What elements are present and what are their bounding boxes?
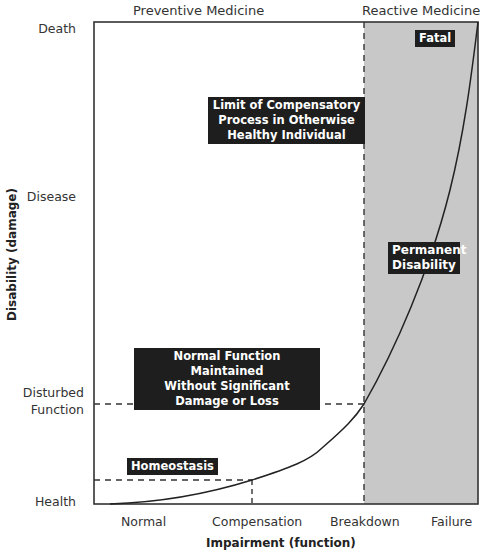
limit-compensatory-label: Limit of Compensatory Process in Otherwi… xyxy=(208,97,365,144)
y-tick-death: Death xyxy=(20,21,76,36)
x-tick-failure: Failure xyxy=(431,514,472,529)
normal-line2: Without Significant xyxy=(138,379,316,394)
permanent-disability-label: Permanent Disability xyxy=(388,242,460,274)
x-tick-breakdown: Breakdown xyxy=(330,514,400,529)
reactive-medicine-label: Reactive Medicine xyxy=(362,3,480,18)
diagram-canvas xyxy=(0,0,490,556)
x-axis-title: Impairment (function) xyxy=(206,536,356,550)
y-tick-disturbed-line2: Function xyxy=(20,401,84,418)
fatal-label: Fatal xyxy=(415,30,455,47)
normal-line1: Normal Function Maintained xyxy=(138,349,316,379)
y-tick-disease: Disease xyxy=(20,189,76,204)
preventive-medicine-label: Preventive Medicine xyxy=(133,3,264,18)
y-tick-disturbed-function: Disturbed Function xyxy=(20,384,84,418)
limit-line1: Limit of Compensatory xyxy=(212,98,361,113)
x-tick-compensation: Compensation xyxy=(212,514,302,529)
normal-line3: Damage or Loss xyxy=(138,394,316,409)
permanent-line2: Disability xyxy=(392,258,456,273)
x-tick-normal: Normal xyxy=(121,514,166,529)
limit-line3: Healthy Individual xyxy=(212,128,361,143)
y-tick-health: Health xyxy=(20,494,76,509)
y-tick-disturbed-line1: Disturbed xyxy=(20,384,84,401)
normal-function-label: Normal Function Maintained Without Signi… xyxy=(134,348,320,410)
permanent-line1: Permanent xyxy=(392,243,456,258)
y-axis-title: Disability (damage) xyxy=(5,201,19,321)
limit-line2: Process in Otherwise xyxy=(212,113,361,128)
homeostasis-label: Homeostasis xyxy=(127,458,218,475)
